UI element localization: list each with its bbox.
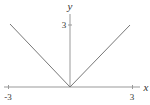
x-tick-label-neg3: -3 bbox=[4, 92, 12, 102]
x-tick-label-3: 3 bbox=[130, 92, 135, 102]
x-axis-label: x bbox=[143, 81, 149, 93]
y-axis-label: y bbox=[67, 0, 73, 12]
graph-canvas: y x -3 3 3 bbox=[0, 0, 150, 105]
y-tick-label-3: 3 bbox=[62, 20, 67, 30]
